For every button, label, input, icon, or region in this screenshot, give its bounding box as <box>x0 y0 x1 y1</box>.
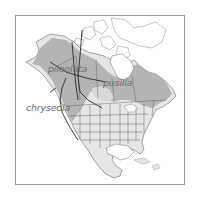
map-graphic <box>16 16 185 185</box>
label-chryseola: chryseola <box>26 102 70 113</box>
range-map: pileolata pusilla chryseola <box>15 15 185 185</box>
label-pileolata: pileolata <box>48 63 87 74</box>
caribbean-islands <box>134 158 160 170</box>
label-pusilla: pusilla <box>103 77 132 88</box>
